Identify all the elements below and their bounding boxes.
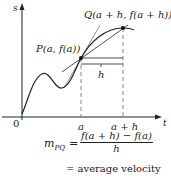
slope-subscript: PQ <box>54 144 64 152</box>
origin-label: 0 <box>13 119 19 129</box>
x-axis-arrow-icon <box>155 115 162 120</box>
y-axis-label: s <box>13 4 18 13</box>
point-q-icon <box>121 26 125 30</box>
interval-h-label: h <box>98 70 104 80</box>
fraction-denominator: h <box>80 143 153 155</box>
x-axis-label: t <box>163 119 167 128</box>
point-q-label: Q(a + h, f(a + h)) <box>84 10 171 20</box>
fraction-numerator: f(a + h) − f(a) <box>80 130 153 143</box>
slope-symbol: mPQ <box>44 138 65 152</box>
average-velocity-label: = average velocity <box>66 164 161 174</box>
point-p-icon <box>79 56 83 60</box>
equals-sign: = <box>69 138 78 149</box>
difference-quotient: f(a + h) − f(a) h <box>80 130 153 155</box>
point-p-label: P(a, f(a)) <box>36 44 80 54</box>
y-axis-arrow-icon <box>20 3 25 10</box>
curve-f <box>22 28 134 114</box>
slope-m: m <box>44 137 54 150</box>
